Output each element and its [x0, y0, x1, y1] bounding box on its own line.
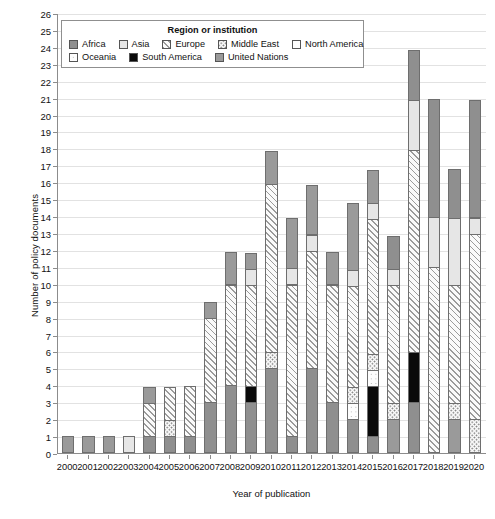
bar-segment[interactable]: [367, 370, 380, 387]
bar-column[interactable]: [469, 101, 482, 453]
bar-segment[interactable]: [408, 352, 421, 403]
bar-column[interactable]: [286, 219, 299, 453]
bar-segment[interactable]: [448, 169, 461, 220]
bar-segment[interactable]: [448, 403, 461, 420]
bar-column[interactable]: [306, 185, 319, 453]
bar-segment[interactable]: [367, 354, 380, 371]
bar-segment[interactable]: [469, 234, 482, 420]
bar-segment[interactable]: [82, 436, 95, 453]
bar-segment[interactable]: [245, 386, 258, 403]
bar-segment[interactable]: [225, 252, 238, 286]
bar-segment[interactable]: [245, 253, 258, 270]
bar-segment[interactable]: [326, 285, 339, 403]
bar-segment[interactable]: [428, 99, 441, 217]
legend-item-africa[interactable]: Africa: [69, 39, 106, 49]
legend-item-middle-east[interactable]: Middle East: [218, 39, 279, 49]
bar-segment[interactable]: [123, 436, 136, 453]
legend-item-united-nations[interactable]: United Nations: [215, 52, 288, 62]
bar-segment[interactable]: [408, 150, 421, 353]
bar-segment[interactable]: [387, 269, 400, 286]
bar-segment[interactable]: [387, 236, 400, 270]
bar-segment[interactable]: [204, 302, 217, 319]
bar-segment[interactable]: [245, 402, 258, 453]
bar-segment[interactable]: [103, 436, 116, 453]
bar-segment[interactable]: [387, 419, 400, 453]
bar-segment[interactable]: [408, 50, 421, 101]
bar-segment[interactable]: [367, 170, 380, 204]
bar-segment[interactable]: [469, 218, 482, 235]
bar-segment[interactable]: [286, 285, 299, 437]
bar-segment[interactable]: [448, 419, 461, 453]
bar-column[interactable]: [62, 437, 75, 453]
bar-segment[interactable]: [286, 268, 299, 285]
bar-segment[interactable]: [347, 387, 360, 404]
bar-segment[interactable]: [408, 100, 421, 151]
bar-segment[interactable]: [286, 218, 299, 269]
bar-segment[interactable]: [367, 386, 380, 437]
bar-segment[interactable]: [265, 184, 278, 353]
bar-segment[interactable]: [347, 286, 360, 388]
legend-item-south-america[interactable]: South America: [129, 52, 202, 62]
bar-column[interactable]: [347, 204, 360, 453]
bar-segment[interactable]: [265, 368, 278, 453]
bar-column[interactable]: [82, 437, 95, 453]
bar-segment[interactable]: [225, 385, 238, 453]
bar-segment[interactable]: [164, 436, 177, 453]
bar-column[interactable]: [225, 252, 238, 453]
bar-segment[interactable]: [469, 419, 482, 453]
bar-segment[interactable]: [286, 436, 299, 453]
bar-segment[interactable]: [448, 285, 461, 403]
bar-segment[interactable]: [143, 387, 156, 404]
bar-column[interactable]: [428, 100, 441, 453]
bar-segment[interactable]: [306, 251, 319, 369]
bar-segment[interactable]: [367, 436, 380, 453]
bar-segment[interactable]: [347, 203, 360, 271]
bar-segment[interactable]: [367, 203, 380, 220]
bar-segment[interactable]: [347, 270, 360, 287]
legend-item-asia[interactable]: Asia: [119, 39, 150, 49]
bar-segment[interactable]: [367, 219, 380, 354]
bar-segment[interactable]: [347, 419, 360, 453]
bar-segment[interactable]: [306, 185, 319, 236]
bar-segment[interactable]: [204, 402, 217, 453]
bar-column[interactable]: [265, 152, 278, 453]
bar-segment[interactable]: [265, 151, 278, 185]
bar-segment[interactable]: [245, 285, 258, 387]
bar-column[interactable]: [367, 171, 380, 453]
bar-segment[interactable]: [428, 267, 441, 453]
bar-segment[interactable]: [265, 352, 278, 369]
bar-column[interactable]: [245, 254, 258, 453]
bar-segment[interactable]: [408, 402, 421, 453]
bar-segment[interactable]: [387, 285, 400, 403]
bar-segment[interactable]: [164, 387, 177, 421]
bar-column[interactable]: [448, 169, 461, 453]
bar-column[interactable]: [123, 437, 136, 453]
legend-item-europe[interactable]: Europe: [162, 39, 205, 49]
bar-column[interactable]: [184, 387, 197, 453]
bar-segment[interactable]: [62, 436, 75, 453]
bar-segment[interactable]: [347, 403, 360, 420]
bar-segment[interactable]: [143, 436, 156, 453]
bar-column[interactable]: [408, 51, 421, 453]
bar-segment[interactable]: [184, 436, 197, 453]
bar-segment[interactable]: [306, 235, 319, 252]
bar-segment[interactable]: [306, 368, 319, 453]
bar-column[interactable]: [164, 388, 177, 453]
bar-segment[interactable]: [469, 100, 482, 218]
bar-column[interactable]: [143, 388, 156, 453]
bar-column[interactable]: [326, 252, 339, 453]
bar-segment[interactable]: [326, 402, 339, 453]
bar-segment[interactable]: [164, 420, 177, 437]
bar-segment[interactable]: [143, 403, 156, 437]
bar-column[interactable]: [204, 303, 217, 453]
legend-item-north-america[interactable]: North America: [292, 39, 363, 49]
bar-segment[interactable]: [428, 217, 441, 268]
bar-column[interactable]: [103, 437, 116, 453]
bar-segment[interactable]: [387, 403, 400, 420]
bar-column[interactable]: [387, 237, 400, 453]
bar-segment[interactable]: [448, 218, 461, 286]
legend-item-oceania[interactable]: Oceania: [69, 52, 116, 62]
bar-segment[interactable]: [225, 285, 238, 387]
bar-segment[interactable]: [204, 318, 217, 403]
bar-segment[interactable]: [184, 386, 197, 437]
